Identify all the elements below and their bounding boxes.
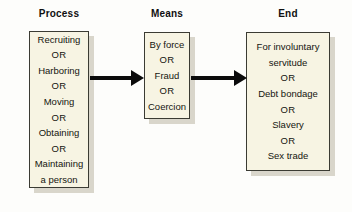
arrow-means-to-end [191, 70, 247, 86]
means-line-1: By force [145, 37, 189, 53]
end-line-1: For involuntary servitude [247, 39, 329, 70]
arrow-head [131, 70, 144, 86]
process-line-5: Moving [30, 94, 88, 110]
arrow-head [234, 70, 247, 86]
end-line-6: OR [247, 133, 329, 149]
end-line-7: Sex trade [247, 148, 329, 164]
process-line-4: OR [30, 78, 88, 94]
column-header-end: End [246, 8, 330, 19]
process-line-2: OR [30, 47, 88, 63]
end-line-3: Debt bondage [247, 86, 329, 102]
column-header-process: Process [29, 8, 89, 19]
process-line-6: OR [30, 110, 88, 126]
means-line-2: OR [145, 52, 189, 68]
end-line-4: OR [247, 102, 329, 118]
means-line-4: OR [145, 83, 189, 99]
column-header-means: Means [144, 8, 190, 19]
process-line-8: OR [30, 141, 88, 157]
means-line-3: Fraud [145, 68, 189, 84]
process-box: Recruiting OR Harboring OR Moving OR Obt… [29, 31, 89, 188]
process-line-1: Recruiting [30, 32, 88, 48]
process-line-9: Maintaining a person [30, 156, 88, 187]
process-line-7: Obtaining [30, 125, 88, 141]
means-line-5: Coercion [145, 99, 189, 115]
arrow-process-to-means [90, 70, 144, 86]
process-line-3: Harboring [30, 63, 88, 79]
means-box: By force OR Fraud OR Coercion [144, 32, 190, 119]
arrow-shaft [191, 76, 235, 80]
trafficking-definition-diagram: Process Means End Recruiting OR Harborin… [0, 0, 352, 212]
end-line-2: OR [247, 70, 329, 86]
end-box: For involuntary servitude OR Debt bondag… [246, 32, 330, 171]
end-line-5: Slavery [247, 117, 329, 133]
arrow-shaft [90, 76, 132, 80]
